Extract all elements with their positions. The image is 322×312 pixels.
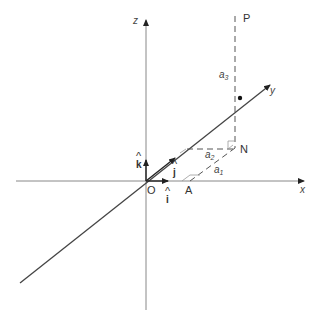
point-marker xyxy=(238,96,242,100)
right-angle-mark-n2 xyxy=(228,145,233,149)
a3-label: a3 xyxy=(219,69,229,81)
a2-label: a2 xyxy=(205,149,215,161)
j-unit-vector-arrow xyxy=(146,158,175,181)
an-dashed-line xyxy=(190,148,235,181)
j-hat-label: ^ j xyxy=(172,158,178,178)
a1-label: a1 xyxy=(214,164,224,176)
x-axis-label: x xyxy=(299,184,306,195)
svg-text:k: k xyxy=(136,159,142,170)
point-a-label: A xyxy=(185,184,193,196)
y-axis-label: y xyxy=(269,85,276,96)
svg-text:j: j xyxy=(172,167,176,178)
k-hat-label: ^ k xyxy=(136,150,142,170)
coordinate-diagram: z x y P N A O ^ i ^ j ^ k a3 a2 a1 xyxy=(0,0,322,312)
y-axis xyxy=(20,85,270,283)
point-n-label: N xyxy=(240,143,248,155)
i-hat-label: ^ i xyxy=(165,185,171,205)
point-p-label: P xyxy=(243,12,250,24)
svg-text:i: i xyxy=(166,194,169,205)
origin-label: O xyxy=(147,184,156,196)
z-axis-label: z xyxy=(132,15,138,26)
